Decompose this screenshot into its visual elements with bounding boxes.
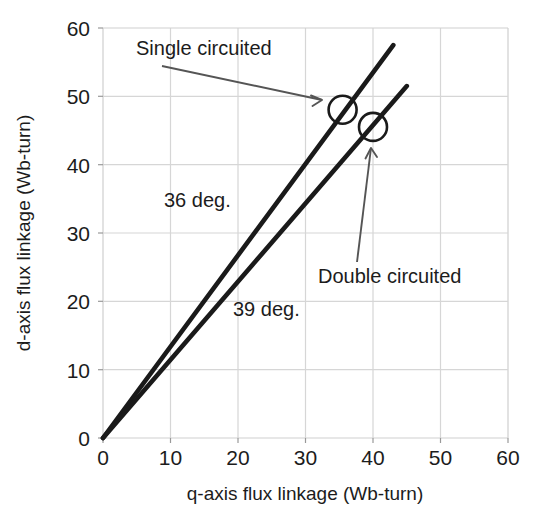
- x-tick-label-5: 50: [429, 446, 452, 469]
- x-tick-label-1: 10: [159, 446, 182, 469]
- flux-linkage-chart: 0 10 20 30 40 50 60 0 10 20 30 40 50 60: [0, 0, 537, 528]
- x-tick-label-0: 0: [97, 446, 109, 469]
- y-tick-label-4: 40: [67, 154, 90, 177]
- slope-label-36-deg: 36 deg.: [164, 189, 231, 211]
- y-tick-label-5: 50: [67, 85, 90, 108]
- slope-label-39-deg: 39 deg.: [233, 298, 300, 320]
- y-tick-label-0: 0: [78, 427, 90, 450]
- x-axis-title: q-axis flux linkage (Wb-turn): [187, 483, 424, 504]
- y-tick-label-3: 30: [67, 222, 90, 245]
- y-tick-label-2: 20: [67, 290, 90, 313]
- x-tick-label-2: 20: [226, 446, 249, 469]
- chart-figure: 0 10 20 30 40 50 60 0 10 20 30 40 50 60: [0, 0, 537, 528]
- x-tick-label-6: 60: [496, 446, 519, 469]
- y-tick-label-6: 60: [67, 17, 90, 40]
- x-tick-label-4: 40: [361, 446, 384, 469]
- annotation-label-single-circuited: Single circuited: [136, 37, 272, 59]
- y-axis-title: d-axis flux linkage (Wb-turn): [13, 115, 34, 352]
- x-tick-label-3: 30: [294, 446, 317, 469]
- annotation-label-double-circuited: Double circuited: [318, 265, 461, 287]
- y-tick-label-1: 10: [67, 359, 90, 382]
